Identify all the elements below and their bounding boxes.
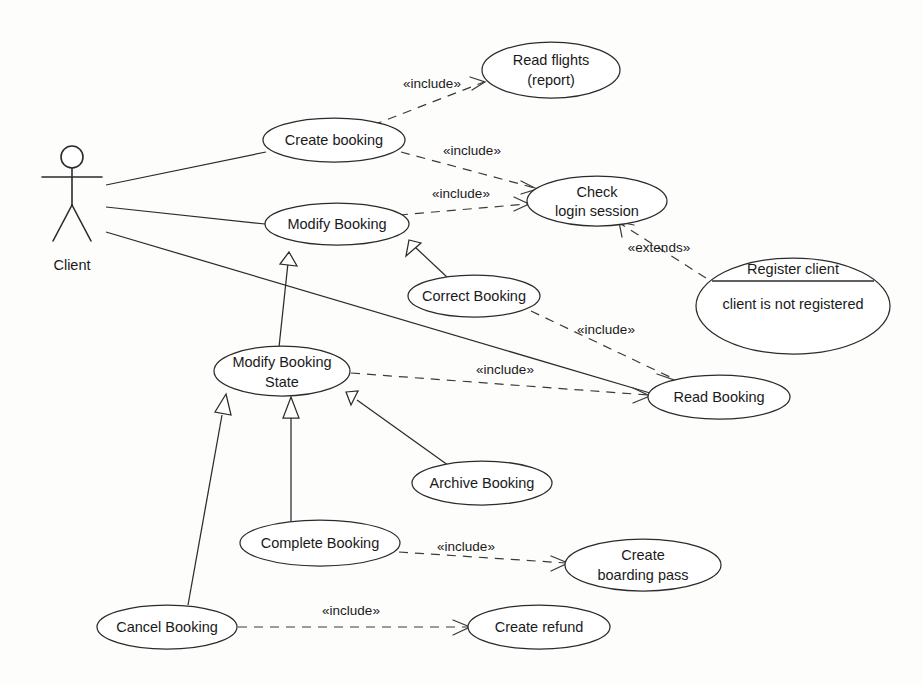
use-case-label-read-flights-line1: Read flights bbox=[513, 52, 590, 68]
stereotype-label-complete-booking-boarding: «include» bbox=[437, 539, 495, 554]
stereotype-label-create-booking-read-flights: «include» bbox=[403, 76, 461, 91]
use-case-read-flights-report[interactable]: Read flights (report) bbox=[482, 42, 620, 98]
use-case-label-mbs-line1: Modify Booking bbox=[232, 354, 331, 370]
use-case-create-refund[interactable]: Create refund bbox=[468, 605, 610, 649]
use-case-ellipse bbox=[482, 42, 620, 98]
use-case-label-register-client-condition: client is not registered bbox=[722, 296, 863, 312]
use-case-archive-booking[interactable]: Archive Booking bbox=[412, 461, 552, 505]
generalization-cancel-booking-to-modify-booking-state[interactable] bbox=[188, 394, 231, 605]
stereotype-label-mbs-read-booking: «include» bbox=[476, 362, 534, 377]
use-case-cancel-booking[interactable]: Cancel Booking bbox=[97, 605, 237, 649]
dependency-cancel-booking-includes-create-refund[interactable] bbox=[238, 620, 470, 635]
use-case-label-cancel-booking: Cancel Booking bbox=[116, 619, 218, 635]
use-case-complete-booking[interactable]: Complete Booking bbox=[240, 520, 400, 566]
use-case-create-boarding-pass[interactable]: Create boarding pass bbox=[565, 539, 721, 591]
association-client-modify-booking[interactable] bbox=[106, 207, 265, 224]
use-case-diagram-canvas: «include» «include» «include» «extends» … bbox=[0, 0, 923, 685]
actor-label-client: Client bbox=[53, 257, 90, 273]
stereotype-label-modify-booking-check-login: «include» bbox=[432, 186, 490, 201]
actor-left-leg bbox=[53, 205, 72, 241]
use-case-label-modify-booking: Modify Booking bbox=[287, 216, 386, 232]
association-client-create-booking[interactable] bbox=[106, 152, 266, 185]
stereotype-label-create-booking-check-login: «include» bbox=[443, 143, 501, 158]
use-case-label-correct-booking: Correct Booking bbox=[422, 288, 526, 304]
use-case-label-check-login-line1: Check bbox=[576, 184, 618, 200]
use-case-label-complete-booking: Complete Booking bbox=[261, 535, 380, 551]
association-client-read-booking[interactable] bbox=[106, 232, 650, 393]
use-case-label-read-flights-line2: (report) bbox=[527, 72, 575, 88]
use-case-label-create-refund: Create refund bbox=[495, 619, 584, 635]
use-case-label-archive-booking: Archive Booking bbox=[430, 475, 535, 491]
generalization-complete-booking-to-modify-booking-state[interactable] bbox=[283, 397, 299, 521]
use-cases-layer: Create booking Read flights (report) Mod… bbox=[97, 42, 890, 649]
use-case-label-boarding-line2: boarding pass bbox=[597, 567, 688, 583]
stereotype-label-correct-booking-read-booking: «include» bbox=[577, 322, 635, 337]
stereotype-label-register-client-extends: «extends» bbox=[628, 240, 690, 255]
use-case-create-booking[interactable]: Create booking bbox=[263, 118, 405, 162]
stereotype-label-cancel-booking-refund: «include» bbox=[322, 603, 380, 618]
use-case-label-boarding-line1: Create bbox=[621, 547, 665, 563]
use-case-label-read-booking: Read Booking bbox=[673, 389, 764, 405]
uml-diagram-svg: «include» «include» «include» «extends» … bbox=[0, 0, 923, 685]
use-case-modify-booking[interactable]: Modify Booking bbox=[265, 203, 409, 245]
generalization-correct-booking-to-modify-booking[interactable] bbox=[406, 240, 448, 278]
dependency-modify-booking-state-includes-read-booking[interactable] bbox=[351, 373, 650, 403]
use-case-modify-booking-state[interactable]: Modify Booking State bbox=[214, 346, 350, 396]
use-case-register-client[interactable]: Register client client is not registered bbox=[696, 258, 890, 354]
use-case-read-booking[interactable]: Read Booking bbox=[648, 375, 790, 419]
use-case-label-create-booking: Create booking bbox=[285, 132, 383, 148]
use-case-label-check-login-line2: login session bbox=[555, 203, 639, 219]
actor-client[interactable]: Client bbox=[42, 146, 102, 273]
actor-right-leg bbox=[72, 205, 91, 241]
actor-head-icon bbox=[61, 146, 83, 168]
use-case-label-register-client-title: Register client bbox=[747, 261, 839, 277]
use-case-correct-booking[interactable]: Correct Booking bbox=[408, 275, 540, 317]
use-case-label-mbs-line2: State bbox=[265, 374, 299, 390]
use-case-check-login-session[interactable]: Check login session bbox=[527, 176, 667, 226]
generalization-modify-booking-state-to-modify-booking[interactable] bbox=[279, 252, 297, 347]
generalization-archive-booking-to-modify-booking-state[interactable] bbox=[346, 391, 452, 468]
dependency-complete-booking-includes-boarding-pass[interactable] bbox=[399, 552, 568, 571]
